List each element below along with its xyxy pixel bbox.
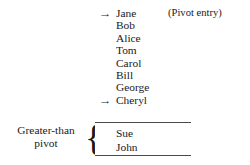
list-item: Sue xyxy=(0,126,250,140)
list-item: George xyxy=(0,81,250,93)
list-item: Alice xyxy=(0,32,250,44)
list-item: Bill xyxy=(0,69,250,81)
list-item: → Jane (Pivot entry) xyxy=(0,7,250,19)
greater-than-name-list: Sue John xyxy=(0,126,250,154)
entry-name: Tom xyxy=(116,44,137,56)
entry-name: Carol xyxy=(116,57,141,69)
entry-name: Cheryl xyxy=(116,94,147,106)
partition-diagram: → Jane (Pivot entry) Bob Alice Tom Carol… xyxy=(0,0,250,165)
pointer-arrow-icon: → xyxy=(99,7,115,19)
list-item: Bob xyxy=(0,19,250,31)
entry-name: Bill xyxy=(116,69,133,81)
name-list: → Jane (Pivot entry) Bob Alice Tom Carol… xyxy=(0,7,250,106)
entry-name: Bob xyxy=(116,19,135,31)
partition-rule-bottom xyxy=(95,155,191,156)
entry-name: Sue xyxy=(116,126,133,140)
partition-rule-top xyxy=(95,122,191,123)
entry-name: Jane xyxy=(116,7,136,19)
entry-name: George xyxy=(116,81,149,93)
list-item: Carol xyxy=(0,57,250,69)
list-item: → Cheryl xyxy=(0,94,250,106)
entry-name: Alice xyxy=(116,32,141,44)
list-item: Tom xyxy=(0,44,250,56)
pointer-arrow-icon: → xyxy=(99,94,115,106)
entry-name: John xyxy=(116,140,138,154)
pivot-entry-annotation: (Pivot entry) xyxy=(168,7,222,19)
list-item: John xyxy=(0,140,250,154)
